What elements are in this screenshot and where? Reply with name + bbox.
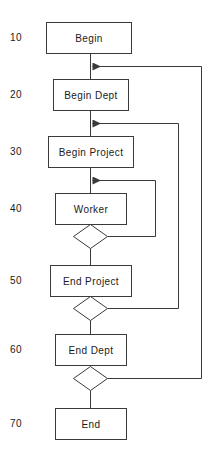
line-number-20: 20 [10, 89, 22, 100]
flowchart-canvas [0, 0, 213, 461]
line-number-40: 40 [10, 203, 22, 214]
node-label-begin-project: Begin Project [59, 147, 124, 158]
node-label-end: End [82, 419, 101, 430]
node-label-end-dept: End Dept [69, 345, 114, 356]
node-label-begin-dept: Begin Dept [64, 90, 117, 101]
end-project-decision-diamond [74, 297, 108, 321]
node-label-end-project: End Project [63, 276, 119, 287]
node-label-begin: Begin [75, 33, 103, 44]
line-number-50: 50 [10, 275, 22, 286]
flowchart-diagram: 10 20 30 40 50 60 70 Begin Begin Dept Be… [0, 0, 213, 461]
end-dept-decision-diamond [74, 367, 108, 391]
worker-decision-diamond [74, 225, 108, 249]
line-number-60: 60 [10, 344, 22, 355]
node-label-worker: Worker [74, 204, 108, 215]
line-number-70: 70 [10, 418, 22, 429]
line-number-30: 30 [10, 146, 22, 157]
line-number-10: 10 [10, 32, 22, 43]
